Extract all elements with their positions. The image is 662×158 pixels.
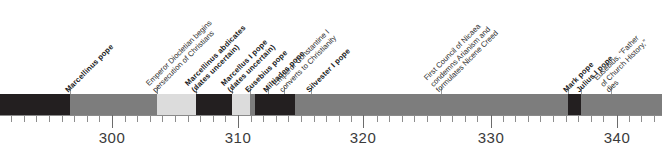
axis-tick-label-320: 320 [350, 129, 377, 146]
axis-minor-tick [654, 115, 655, 122]
timeline-figure: Marcellinus popeEmperor Diocletian begin… [0, 0, 662, 158]
axis-minor-tick [528, 115, 529, 122]
axis-minor-tick [74, 115, 75, 122]
axis-minor-tick [276, 115, 277, 122]
axis-minor-tick [603, 115, 604, 122]
axis-minor-tick [251, 115, 252, 122]
axis-minor-tick [566, 115, 567, 122]
label-marcellinus-pope-line-1: Marcellinus pope [64, 43, 116, 95]
axis-tick-label-300: 300 [99, 129, 126, 146]
axis-minor-tick [591, 115, 592, 122]
segment-9 [568, 94, 581, 115]
axis-tick-label-330: 330 [478, 129, 505, 146]
segment-7 [255, 94, 295, 115]
axis-tick-label-340: 340 [604, 129, 631, 146]
axis-minor-tick [440, 115, 441, 122]
axis-minor-tick [578, 115, 579, 122]
axis-minor-tick [326, 115, 327, 122]
segment-4 [196, 94, 232, 115]
axis-minor-tick [452, 115, 453, 122]
axis-minor-tick [402, 115, 403, 122]
axis-minor-tick [213, 115, 214, 122]
axis-major-tick-330 [491, 115, 492, 128]
axis-minor-tick [414, 115, 415, 122]
axis-minor-tick [540, 115, 541, 122]
axis-minor-tick [62, 115, 63, 122]
timeline-bar [0, 94, 662, 115]
axis-minor-tick [125, 115, 126, 122]
axis-major-tick-300 [112, 115, 113, 128]
axis-minor-tick [503, 115, 504, 122]
label-marcellinus-pope: Marcellinus pope [64, 43, 116, 95]
axis-minor-tick [377, 115, 378, 122]
timeline-axis: 300310320330340 [0, 115, 662, 158]
axis-major-tick-320 [363, 115, 364, 128]
axis-minor-tick [629, 115, 630, 122]
axis-minor-tick [389, 115, 390, 122]
segment-5 [232, 94, 250, 115]
axis-minor-tick [162, 115, 163, 122]
segment-2 [70, 94, 157, 115]
segment-8 [295, 94, 568, 115]
axis-major-tick-340 [617, 115, 618, 128]
axis-minor-tick [465, 115, 466, 122]
axis-minor-tick [11, 115, 12, 122]
axis-minor-tick [175, 115, 176, 122]
axis-minor-tick [137, 115, 138, 122]
axis-minor-tick [24, 115, 25, 122]
label-council-of-nicaea: First Council of Nicaeacondemns Arianism… [423, 17, 501, 95]
axis-minor-tick [49, 115, 50, 122]
axis-minor-tick [351, 115, 352, 122]
axis-minor-tick [200, 115, 201, 122]
axis-minor-tick [339, 115, 340, 122]
axis-minor-tick [515, 115, 516, 122]
axis-minor-tick [36, 115, 37, 122]
axis-minor-tick [477, 115, 478, 122]
axis-minor-tick [314, 115, 315, 122]
axis-tick-label-310: 310 [225, 129, 252, 146]
axis-minor-tick [427, 115, 428, 122]
label-council-of-nicaea-line-2: condemns Arianism and [429, 23, 494, 88]
axis-major-tick-310 [238, 115, 239, 128]
segment-1 [0, 94, 70, 115]
axis-minor-tick [641, 115, 642, 122]
segment-3 [157, 94, 196, 115]
axis-minor-tick [301, 115, 302, 122]
axis-minor-tick [150, 115, 151, 122]
axis-minor-tick [225, 115, 226, 122]
axis-minor-tick [99, 115, 100, 122]
axis-minor-tick [288, 115, 289, 122]
axis-minor-tick [188, 115, 189, 122]
axis-minor-tick [553, 115, 554, 122]
segment-10 [581, 94, 662, 115]
axis-minor-tick [263, 115, 264, 122]
axis-minor-tick [87, 115, 88, 122]
